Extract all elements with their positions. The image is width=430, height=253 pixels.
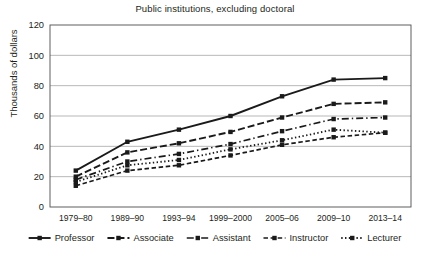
x-tick-label: 2009–10 bbox=[317, 213, 351, 223]
x-tick-label: 2005–06 bbox=[265, 213, 299, 223]
legend-marker-swatch bbox=[116, 236, 120, 240]
data-point-marker bbox=[228, 153, 232, 157]
data-point-marker bbox=[125, 140, 129, 144]
legend-marker-swatch bbox=[272, 236, 276, 240]
y-tick-label: 20 bbox=[34, 172, 44, 182]
chart-legend: ProfessorAssociateAssistantInstructorLec… bbox=[29, 233, 402, 243]
data-point-marker bbox=[177, 158, 181, 162]
legend-item-instructor[interactable]: Instructor bbox=[263, 233, 328, 243]
data-point-marker bbox=[228, 147, 232, 151]
y-tick-label: 80 bbox=[34, 81, 44, 91]
x-tick-labels-group: 1979–801989–901993–941999–20002005–06200… bbox=[59, 213, 402, 223]
series-group bbox=[74, 76, 388, 188]
legend-marker-swatch bbox=[196, 236, 200, 240]
legend-label: Associate bbox=[133, 233, 173, 243]
data-point-marker bbox=[383, 76, 387, 80]
chart-figure: Public institutions, excluding doctoral … bbox=[0, 0, 430, 253]
legend-label: Lecturer bbox=[367, 233, 401, 243]
data-point-marker bbox=[177, 152, 181, 156]
data-point-marker bbox=[280, 143, 284, 147]
y-tick-label: 40 bbox=[34, 142, 44, 152]
data-point-marker bbox=[125, 163, 129, 167]
x-tick-label: 2013–14 bbox=[368, 213, 402, 223]
data-point-marker bbox=[228, 114, 232, 118]
legend-label: Professor bbox=[55, 233, 95, 243]
line-chart-plot: 020406080100120 1979–801989–901993–94199… bbox=[0, 0, 430, 253]
legend-item-assistant[interactable]: Assistant bbox=[187, 233, 251, 243]
data-point-marker bbox=[280, 138, 284, 142]
data-point-marker bbox=[383, 100, 387, 104]
x-tick-label: 1999–2000 bbox=[209, 213, 252, 223]
y-tick-labels-group: 020406080100120 bbox=[28, 20, 44, 212]
data-point-marker bbox=[74, 180, 78, 184]
data-point-marker bbox=[177, 163, 181, 167]
y-tick-label: 60 bbox=[34, 111, 44, 121]
x-tick-label: 1993–94 bbox=[162, 213, 196, 223]
data-point-marker bbox=[331, 102, 335, 106]
y-tick-label: 120 bbox=[28, 20, 44, 30]
data-point-marker bbox=[125, 159, 129, 163]
data-point-marker bbox=[74, 184, 78, 188]
data-point-marker bbox=[383, 115, 387, 119]
y-tick-label: 0 bbox=[39, 202, 44, 212]
series-line-associate bbox=[76, 102, 385, 176]
data-point-marker bbox=[331, 117, 335, 121]
data-point-marker bbox=[125, 150, 129, 154]
data-point-marker bbox=[228, 142, 232, 146]
legend-label: Assistant bbox=[213, 233, 251, 243]
data-point-marker bbox=[383, 130, 387, 134]
legend-label: Instructor bbox=[289, 233, 328, 243]
legend-item-professor[interactable]: Professor bbox=[29, 233, 95, 243]
data-point-marker bbox=[177, 127, 181, 131]
legend-item-associate[interactable]: Associate bbox=[107, 233, 173, 243]
data-point-marker bbox=[228, 130, 232, 134]
legend-item-lecturer[interactable]: Lecturer bbox=[341, 233, 401, 243]
series-line-instructor bbox=[76, 133, 385, 186]
data-point-marker bbox=[280, 94, 284, 98]
y-tick-label: 100 bbox=[28, 51, 44, 61]
data-point-marker bbox=[280, 129, 284, 133]
data-point-marker bbox=[331, 77, 335, 81]
data-point-marker bbox=[177, 141, 181, 145]
data-point-marker bbox=[125, 168, 129, 172]
x-tick-label: 1979–80 bbox=[59, 213, 93, 223]
legend-marker-swatch bbox=[37, 236, 41, 240]
x-tick-label: 1989–90 bbox=[111, 213, 145, 223]
data-point-marker bbox=[74, 168, 78, 172]
legend-marker-swatch bbox=[350, 236, 354, 240]
data-point-marker bbox=[280, 115, 284, 119]
data-point-marker bbox=[331, 135, 335, 139]
data-point-marker bbox=[331, 127, 335, 131]
